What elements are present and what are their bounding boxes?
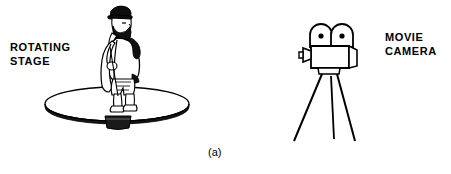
tripod-leg-right <box>337 74 355 141</box>
pedestal-base <box>105 116 131 130</box>
film-reel-left-hub <box>318 33 323 38</box>
lens-funnel <box>303 48 311 62</box>
illustration-canvas <box>0 0 451 174</box>
label-movie-camera: MOVIECAMERA <box>385 30 437 58</box>
figure-panel-a: ROTATINGSTAGE MOVIECAMERA (a) <box>0 0 451 174</box>
label-rotating-stage-line2: STAGE <box>10 55 50 67</box>
boot-left <box>110 106 124 112</box>
tripod-head <box>318 68 340 74</box>
camera-body-side <box>349 46 357 68</box>
tripod-leg-left <box>294 74 322 141</box>
hand-left <box>107 62 117 70</box>
label-movie-camera-line1: MOVIE <box>385 31 423 43</box>
label-movie-camera-line2: CAMERA <box>385 45 437 57</box>
lens-barrel <box>299 52 303 58</box>
label-rotating-stage: ROTATINGSTAGE <box>10 40 71 68</box>
figure-caption: (a) <box>208 146 221 158</box>
boot-right <box>123 105 137 111</box>
tripod-leg-center <box>331 76 334 139</box>
label-rotating-stage-line1: ROTATING <box>10 41 71 53</box>
camera-body <box>311 46 349 68</box>
movie-camera-group <box>294 24 357 141</box>
film-reel-right-hub <box>339 33 344 38</box>
